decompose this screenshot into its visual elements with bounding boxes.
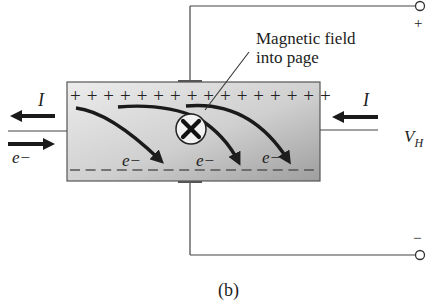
- hall-voltage-subscript: H: [413, 136, 424, 150]
- electron-label-3: e−: [262, 148, 281, 167]
- diagram-canvas: + − + + + + + + + + + + + + + + + + Magn…: [0, 0, 435, 305]
- field-into-page-icon: [176, 114, 206, 144]
- bottom-lead-wire: [178, 180, 416, 255]
- figure-caption: (b): [218, 280, 239, 301]
- positive-terminal-label: +: [414, 15, 422, 31]
- negative-terminal: [416, 251, 425, 260]
- negative-terminal-label: −: [413, 230, 421, 246]
- annotation-line-2: into page: [256, 48, 319, 67]
- electron-label-2: e−: [196, 151, 215, 170]
- hall-voltage-label: VH: [404, 127, 424, 150]
- positive-terminal: [416, 2, 425, 11]
- right-current-label: I: [362, 90, 370, 110]
- left-current-arrow: [10, 110, 55, 122]
- hall-effect-diagram: + − + + + + + + + + + + + + + + + + Magn…: [0, 0, 435, 305]
- left-electron-label: e−: [12, 148, 31, 167]
- positive-charges: + + + + + + + + + + + + + + + +: [70, 85, 331, 106]
- left-current-label: I: [37, 90, 45, 110]
- annotation-line-1: Magnetic field: [256, 29, 356, 48]
- right-current-arrow: [332, 111, 378, 123]
- electron-label-1: e−: [122, 151, 141, 170]
